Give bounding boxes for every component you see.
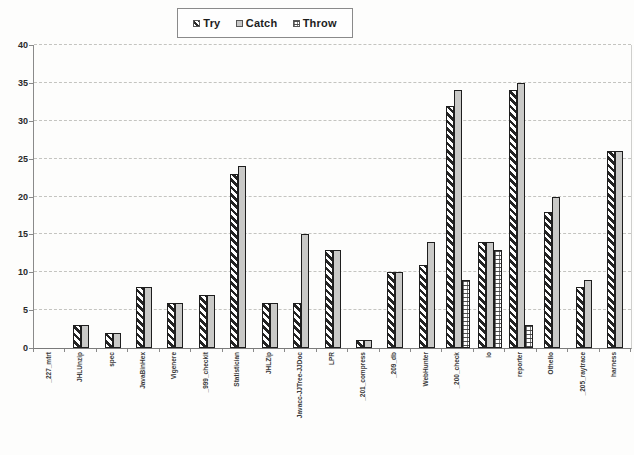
x-tick-label: _227_mtrt [45, 352, 53, 442]
gridline-15 [34, 233, 631, 234]
bar-try-reporter [509, 90, 517, 348]
bar-try-_209_db [387, 272, 395, 348]
bar-try-_205_raytrace [576, 287, 584, 348]
bar-try-Javacc-JJTree-JJDoc [293, 303, 301, 348]
bar-catch-LPR [333, 250, 341, 348]
bar-try-_200_check [446, 106, 454, 348]
x-tick-mark [379, 349, 380, 352]
x-tick-label: JavaBinHex [139, 352, 147, 442]
bar-try-LPR [325, 250, 333, 348]
y-tick-mark [29, 310, 33, 311]
gray-solid-swatch-icon [236, 20, 243, 27]
x-tick-label: _200_check [453, 352, 461, 442]
x-tick-mark [127, 349, 128, 352]
bar-catch-_201_compress [364, 340, 372, 348]
bar-catch-JavaBinHex [144, 287, 152, 348]
bar-try-Vigenere [167, 303, 175, 348]
x-tick-mark [222, 349, 223, 352]
y-tick-label: 0 [6, 343, 28, 353]
x-tick-label: spec [108, 352, 116, 442]
legend-item-throw: Throw [293, 17, 337, 29]
bar-catch-WebHunter [427, 242, 435, 348]
bar-try-_999_checkit [199, 295, 207, 348]
x-tick-label: Statistician [233, 352, 241, 442]
x-tick-mark [64, 349, 65, 352]
bar-catch-Vigenere [175, 303, 183, 348]
y-tick-mark [29, 83, 33, 84]
x-tick-mark [284, 349, 285, 352]
legend-label: Catch [246, 17, 278, 29]
bar-throw-io [494, 250, 502, 348]
bar-catch-_999_checkit [207, 295, 215, 348]
bar-try-WebHunter [419, 265, 427, 348]
y-tick-mark [29, 121, 33, 122]
x-tick-label: Vigenere [170, 352, 178, 442]
x-tick-label: _205_raytrace [579, 352, 587, 442]
x-tick-mark [410, 349, 411, 352]
bar-catch-JHLZip [270, 303, 278, 348]
y-tick-label: 20 [6, 192, 28, 202]
x-tick-mark [473, 349, 474, 352]
y-tick-label: 30 [6, 116, 28, 126]
bar-throw-_200_check [462, 280, 470, 348]
x-tick-mark [33, 349, 34, 352]
bar-try-spec [105, 333, 113, 348]
y-tick-label: 35 [6, 78, 28, 88]
bar-try-io [478, 242, 486, 348]
gridline-30 [34, 120, 631, 121]
x-tick-label: _999_checkit [202, 352, 210, 442]
diagonal-hatch-swatch-icon [193, 20, 200, 27]
x-tick-mark [599, 349, 600, 352]
bar-try-JHLZip [262, 303, 270, 348]
bar-catch-Javacc-JJTree-JJDoc [301, 234, 309, 348]
x-tick-mark [159, 349, 160, 352]
x-tick-mark [536, 349, 537, 352]
x-tick-label: WebHunter [422, 352, 430, 442]
brick-swatch-icon [293, 20, 300, 27]
legend-item-try: Try [193, 17, 220, 29]
y-tick-mark [29, 45, 33, 46]
gridline-25 [34, 158, 631, 159]
legend-label: Throw [303, 17, 337, 29]
bar-try-Statistician [230, 174, 238, 348]
y-tick-mark [29, 159, 33, 160]
x-tick-label: _201_compress [359, 352, 367, 442]
bar-try-_201_compress [356, 340, 364, 348]
x-tick-mark [441, 349, 442, 352]
y-tick-label: 15 [6, 229, 28, 239]
bar-catch-Othello [552, 197, 560, 349]
y-tick-mark [29, 272, 33, 273]
bar-catch-_205_raytrace [584, 280, 592, 348]
y-tick-label: 5 [6, 305, 28, 315]
bar-catch-_200_check [454, 90, 462, 348]
x-tick-mark [347, 349, 348, 352]
bar-try-JHLUnzip [73, 325, 81, 348]
legend-item-catch: Catch [236, 17, 278, 29]
y-tick-label: 25 [6, 154, 28, 164]
x-tick-mark [567, 349, 568, 352]
bar-throw-reporter [525, 325, 533, 348]
x-tick-mark [504, 349, 505, 352]
x-tick-label: harness [610, 352, 618, 442]
y-tick-mark [29, 234, 33, 235]
bar-try-JavaBinHex [136, 287, 144, 348]
y-tick-label: 10 [6, 267, 28, 277]
bar-catch-JHLUnzip [81, 325, 89, 348]
bar-catch-spec [113, 333, 121, 348]
gridline-35 [34, 82, 631, 83]
x-tick-label: reporter [516, 352, 524, 442]
x-tick-mark [96, 349, 97, 352]
x-tick-label: JHLUnzip [76, 352, 84, 442]
y-tick-mark [29, 197, 33, 198]
x-tick-label: Othello [547, 352, 555, 442]
legend-label: Try [203, 17, 220, 29]
bar-try-Othello [544, 212, 552, 348]
x-tick-label: Javacc-JJTree-JJDoc [296, 352, 304, 442]
x-tick-label: io [485, 352, 493, 442]
bar-catch-harness [615, 151, 623, 348]
bar-catch-reporter [517, 83, 525, 348]
x-tick-mark [316, 349, 317, 352]
plot-area [33, 45, 632, 349]
x-tick-mark [630, 349, 631, 352]
bar-chart: TryCatchThrow 0510152025303540 _227_mtrt… [0, 0, 634, 455]
